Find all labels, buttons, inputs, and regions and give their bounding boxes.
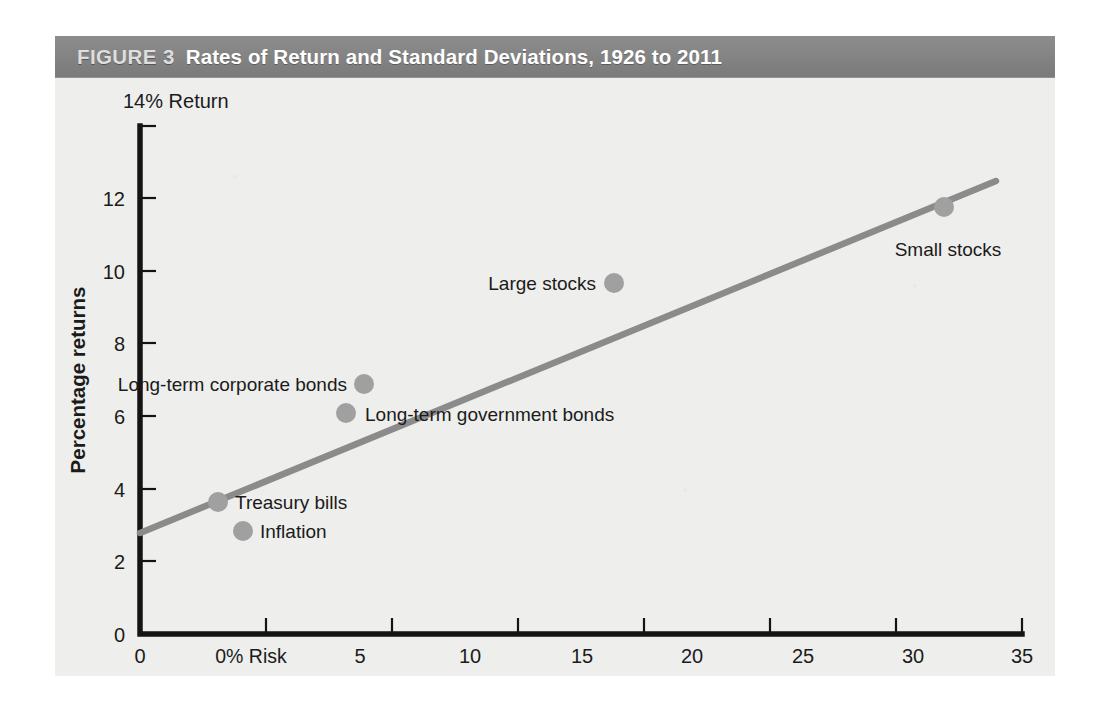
y-tick-label-0: 0: [114, 624, 125, 646]
trend-line: [140, 181, 996, 533]
figure-container: FIGURE 3 Rates of Return and Standard De…: [55, 36, 1055, 676]
y-tick-label-2: 2: [114, 551, 125, 573]
point-inflation: [233, 521, 253, 541]
y-tick-label-6: 6: [114, 406, 125, 428]
y-axis-top-label: 14% Return: [123, 90, 229, 112]
y-axis-tick-labels: 14% Return 12 10 8 6 4 2 0: [103, 90, 229, 646]
point-long-term-corporate-bonds: [354, 374, 374, 394]
label-treasury-bills: Treasury bills: [235, 492, 347, 513]
point-long-term-government-bonds: [336, 403, 356, 423]
y-tick-label-8: 8: [114, 333, 125, 355]
data-point-labels: Treasury bills Inflation Long-term gover…: [118, 239, 1002, 542]
y-tick-label-4: 4: [114, 479, 125, 501]
x-tick-label-10: 10: [459, 645, 481, 667]
label-long-term-corporate-bonds: Long-term corporate bonds: [118, 374, 347, 395]
y-tick-label-12: 12: [103, 188, 125, 210]
x-tick-label-25: 25: [792, 645, 814, 667]
plot-area: 14% Return 12 10 8 6 4 2 0 Percentage re…: [55, 78, 1055, 676]
figure-banner: FIGURE 3 Rates of Return and Standard De…: [55, 36, 1055, 78]
label-small-stocks: Small stocks: [895, 239, 1002, 260]
label-inflation: Inflation: [260, 521, 327, 542]
figure-number: FIGURE 3: [77, 45, 175, 69]
figure-title: Rates of Return and Standard Deviations,…: [186, 45, 722, 69]
y-axis-title: Percentage returns: [66, 287, 89, 474]
x-tick-label-35: 35: [1011, 645, 1033, 667]
x-tick-label-0: 0: [134, 645, 145, 667]
point-large-stocks: [604, 273, 624, 293]
scatter-plot-svg: 14% Return 12 10 8 6 4 2 0 Percentage re…: [55, 78, 1055, 676]
label-long-term-government-bonds: Long-term government bonds: [365, 404, 614, 425]
label-large-stocks: Large stocks: [488, 273, 596, 294]
zero-risk-annotation: 0% Risk: [215, 645, 287, 667]
y-axis-title-group: Percentage returns: [66, 287, 89, 474]
y-tick-label-10: 10: [103, 261, 125, 283]
x-tick-label-30: 30: [902, 645, 924, 667]
x-tick-label-20: 20: [681, 645, 703, 667]
data-points: [208, 197, 954, 541]
point-small-stocks: [934, 197, 954, 217]
x-tick-label-5: 5: [354, 645, 365, 667]
point-treasury-bills: [208, 492, 228, 512]
x-tick-label-15: 15: [571, 645, 593, 667]
